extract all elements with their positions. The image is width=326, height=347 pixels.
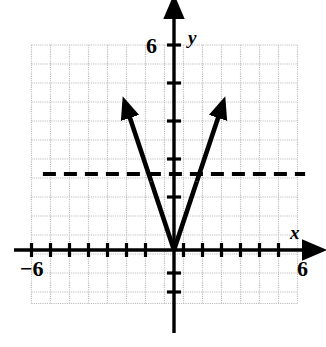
x-axis-label: x <box>290 223 300 242</box>
x-axis-tick-label-negative-6: −6 <box>20 258 44 280</box>
graph-figure: y x 6 6 −6 <box>0 0 326 347</box>
coordinate-plane-svg <box>0 0 326 347</box>
y-axis-tick-label-6: 6 <box>146 35 157 57</box>
curve-left-branch-tip <box>128 113 151 181</box>
y-axis-label: y <box>188 28 196 47</box>
curve-right-branch-tip <box>197 113 220 181</box>
x-axis-tick-label-6: 6 <box>297 258 308 280</box>
